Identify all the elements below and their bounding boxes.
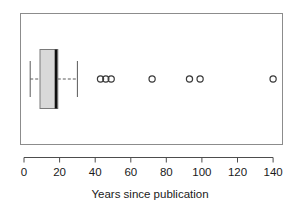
boxplot-figure: 0 20 40 60 80 100 120 140 Years since pu…: [0, 0, 299, 207]
x-tick-label: 0: [21, 166, 27, 178]
outlier-point: [270, 76, 276, 82]
x-tick-label: 120: [228, 166, 247, 178]
outlier-point: [197, 76, 203, 82]
x-tick-label: 100: [192, 166, 211, 178]
x-axis: 0 20 40 60 80 100 120 140: [21, 158, 283, 179]
x-tick-label: 60: [124, 166, 137, 178]
outlier-points: [97, 76, 276, 82]
x-tick-label: 40: [89, 166, 102, 178]
boxplot-glyph: [30, 50, 77, 109]
x-axis-title: Years since publication: [91, 188, 208, 200]
outlier-point: [186, 76, 192, 82]
x-tick-label: 140: [264, 166, 283, 178]
x-tick-label: 80: [160, 166, 173, 178]
outlier-point: [149, 76, 155, 82]
boxplot-canvas: 0 20 40 60 80 100 120 140 Years since pu…: [0, 0, 299, 207]
x-tick-label: 20: [53, 166, 66, 178]
